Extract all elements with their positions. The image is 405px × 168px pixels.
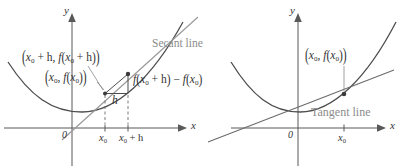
left-point-x0 xyxy=(103,92,107,96)
label-tangency-point: (x0, f(x0)) xyxy=(305,50,347,62)
label-point-x0-plus-h: (x0 + h, f(x0 + h)) xyxy=(22,52,100,64)
tangent-line-label: Tangent line xyxy=(311,106,370,118)
right-x-axis-label: x xyxy=(390,120,395,131)
run-label-h: h xyxy=(112,95,118,107)
right-origin-label: 0 xyxy=(288,130,293,140)
left-x-axis-arrowhead xyxy=(178,124,187,132)
left-point-x0h xyxy=(126,72,130,76)
rise-paren-c1: ) xyxy=(167,72,171,87)
paren-open-outer-2: ( xyxy=(45,69,49,87)
rp-paren-close-outer: ) xyxy=(343,47,347,65)
left-y-axis-label: y xyxy=(64,5,69,16)
calculus-figure: y x 0 (x0 + h, f(x0 + h)) (x0, f(x0)) Se… xyxy=(0,0,405,168)
right-x-axis-arrowhead xyxy=(377,124,386,132)
rise-paren-o1: ( xyxy=(136,72,140,87)
rise-label-difference: f(x0 + h) − f(x0) xyxy=(133,74,202,86)
rise-paren-o2: ( xyxy=(186,72,190,87)
upper-x-suffix: + h xyxy=(35,51,53,63)
rtick0-sub: 0 xyxy=(343,137,346,144)
left-tick-label-x0-plus-h: x0 + h xyxy=(119,133,143,144)
ltick1-suffix: + h xyxy=(127,132,143,143)
label-point-x0: (x0, f(x0)) xyxy=(45,72,87,84)
rise-paren-c2: ) xyxy=(199,72,203,87)
secant-line-label: Secant line xyxy=(152,38,203,50)
paren-open-outer: ( xyxy=(22,49,26,67)
paren-close-outer: ) xyxy=(96,49,100,67)
rise-minus: − xyxy=(171,73,183,85)
right-y-axis-arrowhead xyxy=(294,13,302,22)
paren-open-inner-2: ( xyxy=(66,70,70,85)
ltick0-sub: 0 xyxy=(104,137,107,144)
right-parabola-curve xyxy=(231,22,396,112)
upper-f-suffix: + h xyxy=(74,51,92,63)
right-panel-graphics xyxy=(208,13,396,166)
right-y-axis-label: y xyxy=(290,5,295,16)
rise-p1: + h xyxy=(149,73,167,85)
paren-open-inner: ( xyxy=(61,50,65,65)
left-leader-lower xyxy=(97,82,104,90)
left-tick-label-x0: x0 xyxy=(99,133,107,144)
left-origin-label: 0 xyxy=(62,130,67,140)
rp-paren-open-outer: ( xyxy=(305,47,309,65)
right-tick-label-x0: x0 xyxy=(338,133,346,144)
left-parabola-curve xyxy=(8,22,183,112)
left-x-axis-label: x xyxy=(191,120,196,131)
rp-paren-open-inner: ( xyxy=(326,48,330,63)
tangency-point xyxy=(342,92,347,97)
left-y-axis-arrowhead xyxy=(68,13,76,22)
paren-close-outer-2: ) xyxy=(83,69,87,87)
